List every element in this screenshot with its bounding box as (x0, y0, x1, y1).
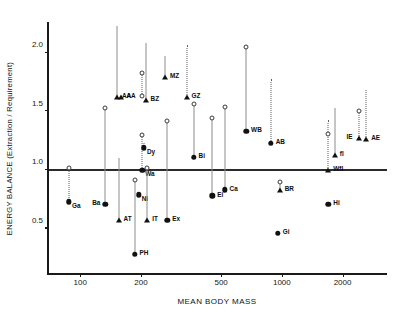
point-label-ab: AB (276, 138, 285, 145)
data-point-ae[interactable] (363, 137, 369, 142)
data-point-gz[interactable] (184, 95, 190, 100)
data-point-aa2[interactable] (118, 95, 124, 100)
upper-estimate-bi[interactable] (191, 102, 196, 107)
point-label-it: IT (152, 215, 158, 222)
point-label-ga: Ga (72, 202, 81, 209)
data-point-dy[interactable] (141, 145, 146, 150)
data-point-wb[interactable] (243, 129, 248, 134)
data-point-ba[interactable] (102, 201, 107, 206)
data-point-it[interactable] (144, 218, 150, 223)
point-label-ex: Ex (172, 215, 180, 222)
upper-estimate-ph[interactable] (132, 178, 137, 183)
upper-estimate-ex[interactable] (165, 118, 170, 123)
data-point-at[interactable] (116, 218, 122, 223)
point-label-gz: GZ (192, 92, 201, 99)
point-label-at: AT (124, 215, 132, 222)
x-axis-tick-label: 200 (134, 278, 147, 287)
data-point-wfl[interactable] (325, 167, 331, 172)
y-axis-title: ENERGY BALANCE (Extraction / Requirement… (2, 22, 16, 275)
error-connector (118, 158, 119, 220)
data-point-wfl2[interactable] (325, 131, 330, 136)
plot-area: 0.51.01.52.010020050010002000GaBaAAAAATP… (47, 22, 387, 275)
data-point-ex[interactable] (164, 218, 169, 223)
upper-estimate-br[interactable] (277, 179, 282, 184)
error-connector (167, 121, 168, 221)
error-connector (366, 90, 367, 139)
error-connector (142, 135, 143, 170)
point-label-ba: Ba (92, 199, 100, 206)
x-axis-tick-label: 2000 (334, 278, 352, 287)
y-axis-tick (45, 52, 49, 53)
energy-balance-scatter-figure: ENERGY BALANCE (Extraction / Requirement… (0, 0, 405, 325)
error-connector (105, 108, 106, 204)
x-axis-tick-label: 500 (214, 278, 227, 287)
y-axis-tick (45, 227, 49, 228)
point-label-bi: Bi (199, 152, 205, 159)
error-connector (193, 104, 194, 157)
data-point-bz2[interactable] (140, 94, 145, 99)
y-axis-tick-label: 2.0 (32, 40, 43, 49)
y-axis-tick-label: 1.5 (32, 98, 43, 107)
data-point-ni[interactable] (136, 192, 141, 197)
error-connector (334, 108, 335, 155)
data-point-gi[interactable] (275, 230, 280, 235)
error-connector (147, 168, 148, 221)
point-label-hi: Hi (333, 199, 339, 206)
data-point-bi[interactable] (191, 154, 196, 159)
error-connector (186, 45, 187, 98)
upper-estimate-ba[interactable] (103, 105, 108, 110)
point-label-ie: IE (347, 133, 353, 140)
upper-estimate-ie[interactable] (356, 109, 361, 114)
plot-inner: 0.51.01.52.010020050010002000GaBaAAAAATP… (49, 22, 387, 273)
point-label-mz: MZ (170, 72, 179, 79)
upper-estimate-ga[interactable] (67, 165, 72, 170)
point-label-ae: AE (371, 134, 380, 141)
point-label-ph: PH (140, 249, 149, 256)
point-label-wfl: Wfl (333, 165, 343, 172)
y-axis-tick-label: 1.0 (32, 157, 43, 166)
error-connector (328, 120, 329, 170)
point-label-br: BR (285, 185, 294, 192)
error-connector (246, 47, 247, 131)
upper-estimate-ei[interactable] (210, 116, 215, 121)
upper-estimate-bz2[interactable] (140, 70, 145, 75)
point-label-ca: Ca (230, 185, 238, 192)
upper-estimate-ca[interactable] (222, 104, 227, 109)
upper-estimate-wa[interactable] (140, 132, 145, 137)
data-point-ph[interactable] (132, 252, 137, 257)
data-point-ga[interactable] (66, 199, 71, 204)
error-connector (145, 43, 146, 99)
point-label-aa2: AA (126, 92, 135, 99)
data-point-br[interactable] (277, 187, 283, 192)
error-connector (270, 79, 271, 143)
y-axis-tick-label: 0.5 (32, 216, 43, 225)
point-label-fl: fl (340, 150, 344, 157)
data-point-ca[interactable] (222, 187, 227, 192)
point-label-dy: Dy (147, 148, 155, 155)
error-connector (358, 111, 359, 138)
error-connector (69, 168, 70, 202)
data-point-hi[interactable] (326, 201, 331, 206)
data-point-ab[interactable] (268, 140, 273, 145)
point-label-gi: Gi (283, 228, 290, 235)
x-axis-title: MEAN BODY MASS (47, 297, 387, 306)
x-axis-tick (282, 273, 283, 277)
error-connector (142, 73, 143, 96)
data-point-ie[interactable] (356, 136, 362, 141)
data-point-fl[interactable] (332, 152, 338, 157)
data-point-ei[interactable] (210, 193, 215, 198)
data-point-mz[interactable] (162, 75, 168, 80)
upper-estimate-wb[interactable] (244, 44, 249, 49)
y-axis-tick (45, 110, 49, 111)
error-connector (212, 118, 213, 195)
upper-estimate-it[interactable] (145, 165, 150, 170)
x-axis-tick-label: 100 (74, 278, 87, 287)
point-label-bz: BZ (151, 95, 160, 102)
error-connector (134, 180, 135, 254)
error-connector (224, 107, 225, 190)
error-connector (116, 26, 117, 97)
x-axis-tick (343, 273, 344, 277)
x-axis-tick (221, 273, 222, 277)
point-label-wb: WB (251, 126, 262, 133)
x-axis-tick (80, 273, 81, 277)
